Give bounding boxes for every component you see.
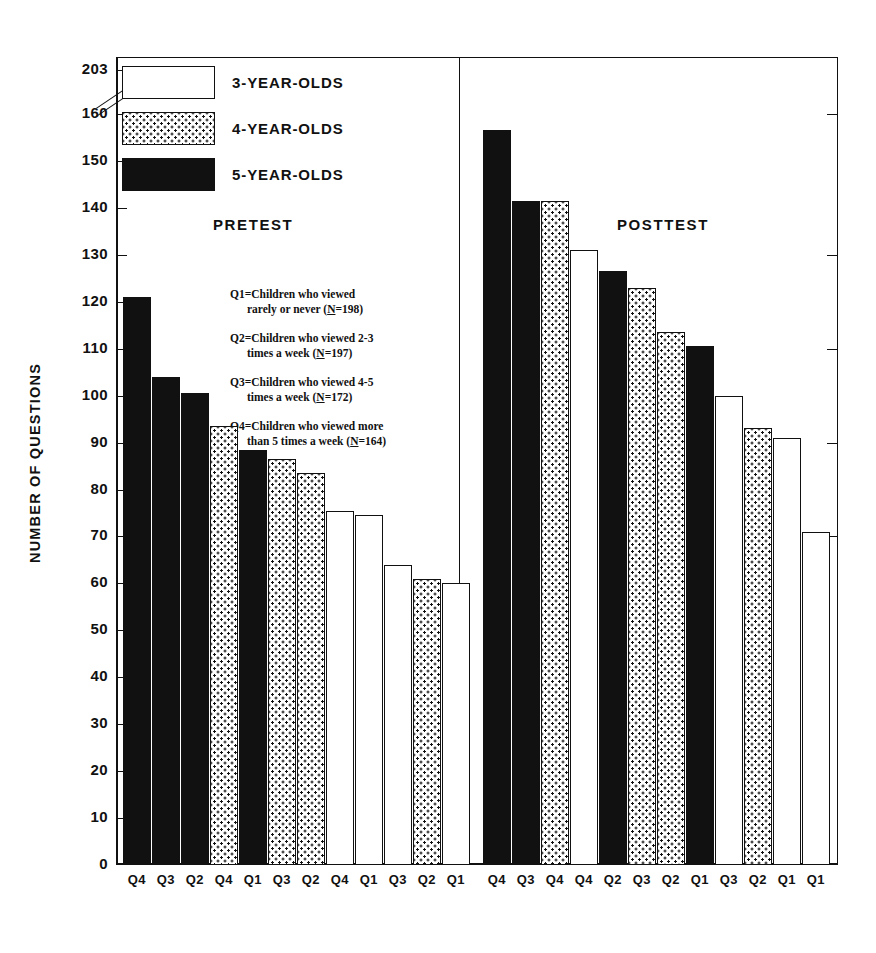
x-tick-label: Q3 (268, 872, 296, 887)
bar (773, 438, 801, 865)
x-tick-label: Q4 (483, 872, 511, 887)
bar (599, 271, 627, 865)
x-tick-label: Q3 (512, 872, 540, 887)
bar (570, 250, 598, 865)
bar (442, 583, 470, 865)
bar (268, 459, 296, 865)
bar (413, 579, 441, 865)
x-tick-label: Q1 (442, 872, 470, 887)
bar (715, 396, 743, 865)
bar (239, 450, 267, 865)
x-tick-label: Q1 (773, 872, 801, 887)
x-tick-label: Q1 (239, 872, 267, 887)
x-tick-label: Q2 (599, 872, 627, 887)
bar (802, 532, 830, 865)
x-tick-label: Q3 (628, 872, 656, 887)
bar (628, 288, 656, 865)
x-tick-label: Q4 (541, 872, 569, 887)
bar (657, 332, 685, 865)
x-tick-label: Q1 (355, 872, 383, 887)
x-tick-label: Q4 (570, 872, 598, 887)
x-tick-label: Q1 (802, 872, 830, 887)
x-tick-label: Q2 (744, 872, 772, 887)
bar (210, 426, 238, 865)
bar (181, 393, 209, 865)
bar (384, 565, 412, 865)
bar (326, 511, 354, 865)
x-tick-label: Q4 (326, 872, 354, 887)
bar (123, 297, 151, 865)
bar (744, 428, 772, 865)
bar (686, 346, 714, 865)
x-tick-label: Q4 (123, 872, 151, 887)
bar (483, 130, 511, 865)
x-tick-label: Q2 (181, 872, 209, 887)
x-tick-label: Q2 (657, 872, 685, 887)
x-tick-label: Q3 (715, 872, 743, 887)
bar (297, 473, 325, 865)
bar (355, 515, 383, 865)
x-tick-label: Q1 (686, 872, 714, 887)
x-tick-label: Q2 (297, 872, 325, 887)
bar (541, 201, 569, 865)
bar-chart-figure: 2031601501401301201101009080706050403020… (0, 0, 876, 953)
x-tick-label: Q2 (413, 872, 441, 887)
bar (152, 377, 180, 865)
bars-layer: Q4Q3Q2Q4Q1Q3Q2Q4Q1Q3Q2Q1Q4Q3Q4Q4Q2Q3Q2Q1… (0, 0, 876, 953)
bar (512, 201, 540, 865)
x-tick-label: Q4 (210, 872, 238, 887)
x-tick-label: Q3 (152, 872, 180, 887)
x-tick-label: Q3 (384, 872, 412, 887)
